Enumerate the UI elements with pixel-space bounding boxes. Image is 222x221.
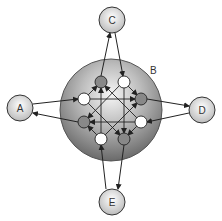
outer-node-a: A	[7, 95, 33, 121]
region-b-label: B	[150, 65, 157, 76]
inner-node-white	[135, 116, 147, 128]
central-region-b	[60, 59, 162, 161]
outer-node-e: E	[99, 189, 125, 215]
inner-node-gray	[78, 116, 90, 128]
svg-text:A: A	[17, 103, 24, 114]
inner-node-gray	[95, 76, 107, 88]
inner-node-white	[118, 76, 130, 88]
inner-node-gray	[135, 93, 147, 105]
svg-text:D: D	[198, 105, 205, 116]
svg-text:E: E	[109, 197, 116, 208]
inner-node-white	[95, 133, 107, 145]
svg-text:C: C	[108, 15, 115, 26]
outer-node-c: C	[99, 7, 125, 33]
inner-node-gray	[118, 133, 130, 145]
network-diagram: B C	[0, 0, 222, 221]
outer-node-d: D	[189, 97, 215, 123]
inner-node-white	[78, 93, 90, 105]
